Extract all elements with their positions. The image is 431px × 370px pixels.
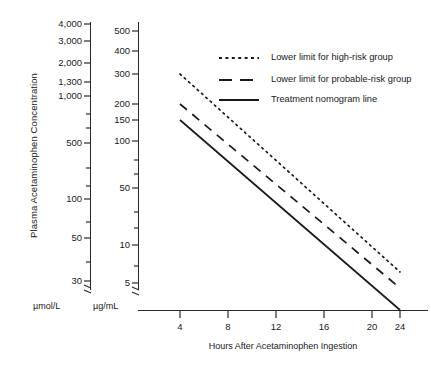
ugml-axis-ticks bbox=[132, 31, 139, 283]
mumol-tick-label: 500 bbox=[30, 138, 82, 148]
ugml-tick-label: 50 bbox=[90, 183, 130, 193]
series-line-probable-risk bbox=[180, 104, 400, 288]
ugml-tick-label: 400 bbox=[90, 46, 130, 56]
ugml-tick-label: 300 bbox=[90, 69, 130, 79]
legend-swatches bbox=[219, 58, 259, 100]
mumol-tick-label: 30 bbox=[30, 276, 82, 286]
mumol-tick-label: 3,000 bbox=[30, 36, 82, 46]
mumol-tick-label: 100 bbox=[30, 194, 82, 204]
ugml-tick-label: 150 bbox=[90, 115, 130, 125]
x-tick-label: 4 bbox=[164, 322, 196, 332]
ugml-tick-label: 10 bbox=[90, 240, 130, 250]
mumol-tick-label: 1,000 bbox=[30, 91, 82, 101]
legend-item-label: Lower limit for probable-risk group bbox=[271, 75, 412, 84]
ugml-tick-label: 200 bbox=[90, 99, 130, 109]
mumol-tick-label: 1,300 bbox=[30, 77, 82, 87]
ugml-unit-label: µg/mL bbox=[93, 302, 118, 311]
x-tick-label: 12 bbox=[260, 322, 292, 332]
x-tick-label: 8 bbox=[212, 322, 244, 332]
x-axis-ticks bbox=[180, 311, 400, 318]
mumol-unit-label: µmol/L bbox=[33, 302, 60, 311]
ugml-axis-break-mark bbox=[132, 287, 139, 295]
x-tick-label: 16 bbox=[308, 322, 340, 332]
series-line-treatment-nomogram bbox=[180, 120, 400, 310]
mumol-tick-label: 2,000 bbox=[30, 58, 82, 68]
x-tick-label: 24 bbox=[384, 322, 416, 332]
ugml-tick-label: 100 bbox=[90, 136, 130, 146]
ugml-tick-label: 5 bbox=[90, 278, 130, 288]
legend-item-label: Lower limit for high-risk group bbox=[271, 53, 393, 62]
ugml-tick-label: 500 bbox=[90, 26, 130, 36]
mumol-tick-label: 4,000 bbox=[30, 19, 82, 29]
legend-item-label: Treatment nomogram line bbox=[271, 95, 377, 104]
mumol-tick-label: 50 bbox=[30, 233, 82, 243]
acetaminophen-nomogram-chart: Plasma Acetaminophen Concentration bbox=[0, 0, 431, 370]
x-axis-title: Hours After Acetaminophen Ingestion bbox=[138, 342, 428, 351]
